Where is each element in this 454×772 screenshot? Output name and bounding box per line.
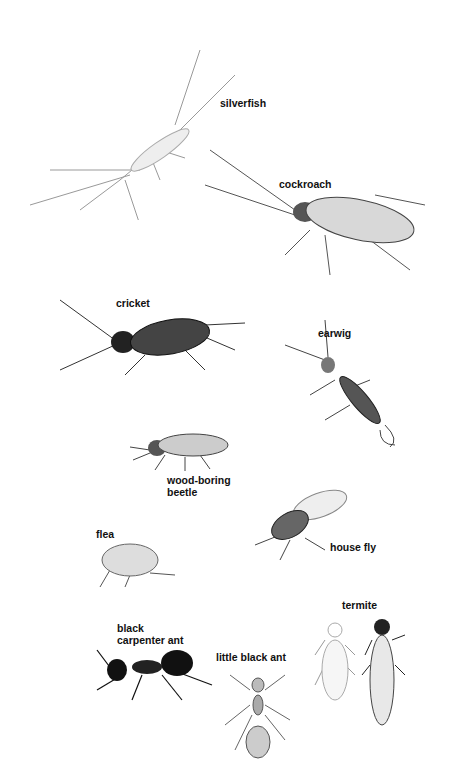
wood-boring-beetle-illustration — [125, 425, 235, 475]
label-black-carpenter-ant: black carpenter ant — [117, 622, 184, 646]
flea-illustration — [90, 535, 185, 590]
cricket-illustration — [55, 295, 250, 380]
insect-illustration: silverfish cockroach cricket earwig — [0, 0, 454, 772]
label-earwig: earwig — [318, 327, 351, 339]
label-termite: termite — [342, 599, 377, 611]
termite-illustration — [310, 615, 420, 730]
label-flea: flea — [96, 528, 114, 540]
label-cockroach: cockroach — [279, 178, 332, 190]
black-carpenter-ant-illustration — [92, 645, 217, 705]
label-cricket: cricket — [116, 297, 150, 309]
label-little-black-ant: little black ant — [216, 651, 286, 663]
label-silverfish: silverfish — [220, 97, 266, 109]
little-black-ant-illustration — [220, 670, 295, 765]
label-wood-boring-beetle: wood-boring beetle — [167, 474, 231, 498]
cockroach-illustration — [200, 145, 440, 280]
label-house-fly: house fly — [330, 541, 376, 553]
